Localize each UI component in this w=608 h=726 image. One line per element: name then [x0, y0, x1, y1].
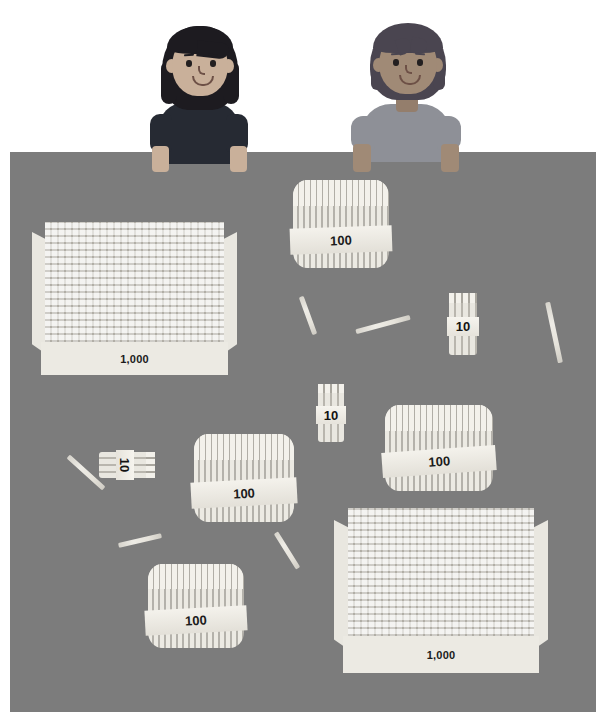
- bundle-100-right[interactable]: 100: [385, 405, 493, 491]
- bundle-100-top[interactable]: 100: [293, 180, 389, 268]
- bundle-stick-tops: [148, 564, 244, 589]
- bundle-stick-tops: [293, 180, 389, 206]
- girl-eye-right: [210, 60, 216, 67]
- bundle-band: 100: [290, 225, 393, 255]
- box-1000-label: 1,000: [427, 649, 456, 661]
- box-1000-lower-right[interactable]: 1,000: [334, 508, 548, 673]
- bundle-band: 10: [447, 317, 479, 336]
- bundle-stick-tops: [194, 434, 294, 460]
- bundle-10-label: 10: [456, 319, 470, 334]
- box-1000-front-label-panel: 1,000: [343, 636, 539, 673]
- bundle-100-label: 100: [330, 232, 352, 248]
- child-boy-right: [345, 18, 471, 158]
- bundle-100-label: 100: [233, 485, 255, 501]
- boy-eye-left: [393, 59, 399, 66]
- bundle-100-label: 100: [185, 612, 207, 628]
- girl-arm-left: [152, 146, 169, 172]
- scene: 1,000 1,000 100 100 100: [0, 0, 608, 726]
- girl-arm-right: [230, 146, 247, 172]
- bundle-stick-tops: [318, 384, 344, 393]
- box-flap-right: [533, 520, 548, 650]
- bundle-10-right[interactable]: 10: [449, 293, 477, 355]
- boy-arm-right: [441, 144, 459, 172]
- boy-eye-right: [417, 59, 423, 66]
- bundle-stick-tops: [146, 452, 155, 478]
- bundle-band: 100: [145, 605, 248, 635]
- bundle-100-label: 100: [428, 453, 451, 469]
- bundle-10-label: 10: [118, 458, 133, 472]
- child-girl-left: [142, 18, 262, 158]
- box-flap-left: [334, 520, 349, 650]
- bundle-100-bottom-left[interactable]: 100: [148, 564, 244, 648]
- bundle-10-left-rotated[interactable]: 10: [99, 452, 155, 478]
- box-1000-cubes: [45, 222, 224, 347]
- box-flap-right: [223, 232, 237, 354]
- girl-eye-left: [186, 60, 192, 67]
- box-1000-label: 1,000: [120, 353, 149, 365]
- bundle-band: 100: [190, 477, 297, 509]
- bundle-10-center[interactable]: 10: [318, 384, 344, 442]
- box-flap-left: [32, 232, 46, 354]
- bundle-stick-tops: [449, 293, 477, 303]
- bundle-10-label: 10: [324, 408, 338, 423]
- box-1000-cubes: [348, 508, 534, 641]
- bundle-100-center[interactable]: 100: [194, 434, 294, 522]
- bundle-stick-tops: [385, 405, 493, 431]
- girl-hair-bang: [196, 40, 229, 59]
- bundle-band: 10: [116, 450, 134, 480]
- box-1000-upper-left[interactable]: 1,000: [32, 222, 237, 375]
- bundle-band: 10: [316, 406, 346, 424]
- boy-arm-left: [353, 144, 371, 172]
- box-1000-front-label-panel: 1,000: [41, 342, 228, 375]
